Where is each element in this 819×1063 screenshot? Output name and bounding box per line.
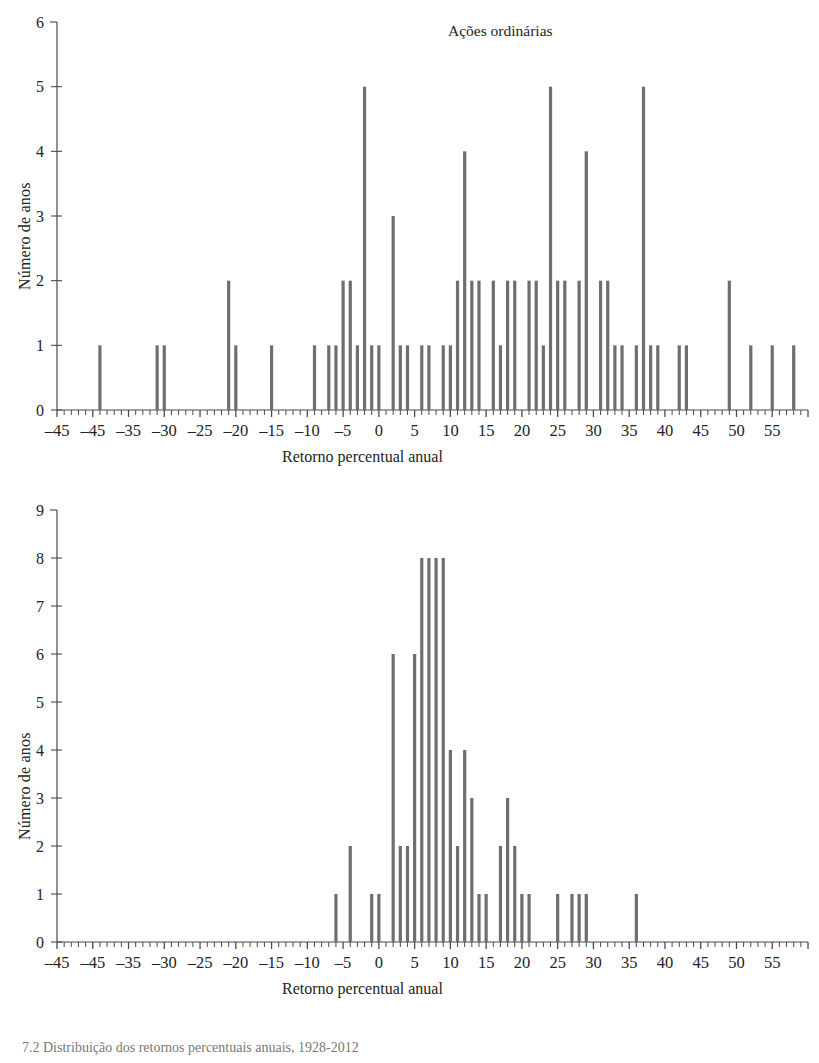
panel-titulos-governamentais: Títulos governamentais a longo prazo Núm… [0,490,819,1035]
x-tick-label: –35 [115,421,141,440]
x-tick-label: 45 [692,421,709,440]
x-tick-label: –30 [151,953,177,972]
histogram-bar [427,345,430,410]
x-tick-label: 35 [621,421,638,440]
histogram-bar [556,281,559,410]
x-tick-label: –35 [115,953,141,972]
histogram-bar [442,345,445,410]
histogram-bar [599,281,602,410]
histogram-bar [470,281,473,410]
histogram-bar [635,894,638,942]
y-tick-label: 3 [36,208,44,225]
histogram-bar [377,894,380,942]
histogram-bar [413,654,416,942]
y-tick-label: 9 [36,502,44,519]
figure-histograms: Ações ordinárias Número de anos Retorno … [0,0,819,1063]
histogram-bar [163,345,166,410]
histogram-bar [678,345,681,410]
histogram-bar [463,151,466,410]
histogram-bar [499,345,502,410]
histogram-bar [477,894,480,942]
histogram-bar [392,216,395,410]
histogram-bar [527,894,530,942]
y-tick-label: 1 [36,337,44,354]
histogram-bar [406,345,409,410]
x-tick-label: 15 [478,421,495,440]
histogram-bar [620,345,623,410]
histogram-bar [585,151,588,410]
histogram-bar [771,345,774,410]
histogram-bar [456,846,459,942]
y-tick-label: 4 [36,143,44,160]
histogram-bar [227,281,230,410]
histogram-bar [370,345,373,410]
histogram-bar [492,281,495,410]
x-tick-label: –20 [222,421,248,440]
histogram-bar [399,846,402,942]
histogram-bar [399,345,402,410]
x-tick-label: –10 [294,421,320,440]
x-tick-label: 30 [585,953,602,972]
y-tick-label: 2 [36,838,44,855]
x-tick-label: 5 [410,953,418,972]
y-tick-label: 3 [36,790,44,807]
histogram-bar [449,750,452,942]
x-tick-label: 50 [728,953,745,972]
histogram-bar [563,281,566,410]
histogram-bar [449,345,452,410]
histogram-bar [392,654,395,942]
histogram-bar [334,345,337,410]
x-tick-label: –45 [79,421,105,440]
x-tick-label: –15 [258,953,284,972]
x-tick-label: –45 [44,953,70,972]
y-tick-label: 5 [36,78,44,95]
panel-acoes-ordinarias: Ações ordinárias Número de anos Retorno … [0,0,819,490]
x-tick-label: 25 [549,953,566,972]
histogram-bar [542,345,545,410]
histogram-bar [485,894,488,942]
x-tick-label: –25 [187,421,213,440]
histogram-bar [578,894,581,942]
x-tick-label: 45 [692,953,709,972]
x-tick-label: –5 [334,953,352,972]
y-axis-label-bottom: Número de anos [16,732,34,840]
x-tick-label: 55 [764,421,781,440]
histogram-bar [470,798,473,942]
histogram-bar [728,281,731,410]
histogram-bar [520,894,523,942]
histogram-bar [613,345,616,410]
x-tick-label: 10 [442,953,459,972]
histogram-bar [349,846,352,942]
x-tick-label: –15 [258,421,284,440]
y-tick-label: 1 [36,886,44,903]
x-tick-label: 55 [764,953,781,972]
histogram-bar [420,345,423,410]
y-tick-label: 0 [36,934,44,951]
histogram-bar [506,281,509,410]
histogram-bar [349,281,352,410]
y-tick-label: 2 [36,272,44,289]
x-tick-label: 35 [621,953,638,972]
histogram-bar [477,281,480,410]
x-tick-label: 0 [375,953,383,972]
y-axis-label-top: Número de anos [16,182,34,290]
histogram-bar [527,281,530,410]
histogram-bar [327,345,330,410]
histogram-bar [420,558,423,942]
x-axis-label-top: Retorno percentual anual [282,448,443,466]
histogram-bar [685,345,688,410]
y-tick-label: 7 [36,598,44,615]
histogram-bar [506,798,509,942]
histogram-bar [649,345,652,410]
x-tick-label: 25 [549,421,566,440]
histogram-bar [513,281,516,410]
x-tick-label: –45 [79,953,105,972]
histogram-bar [434,558,437,942]
x-tick-label: –20 [222,953,248,972]
histogram-bar [635,345,638,410]
histogram-bar [656,345,659,410]
x-tick-label: 5 [410,421,418,440]
histogram-bar [377,345,380,410]
histogram-bar [570,894,573,942]
x-tick-label: 40 [657,421,674,440]
